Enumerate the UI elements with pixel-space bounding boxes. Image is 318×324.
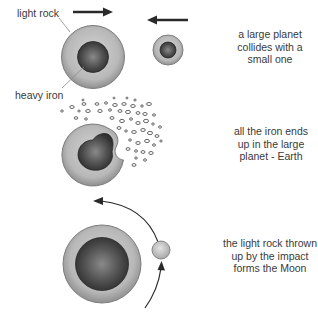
caption-line: up by the impact bbox=[210, 250, 318, 263]
arrow-left-icon bbox=[147, 16, 188, 25]
caption-line: a large planet bbox=[215, 28, 318, 41]
caption-line: up in the large bbox=[216, 138, 318, 151]
step-3-moon bbox=[63, 197, 170, 308]
arrow-right-icon bbox=[73, 8, 113, 17]
step-2-caption: all the iron ends up in the large planet… bbox=[216, 125, 318, 163]
caption-line: the light rock thrown bbox=[210, 237, 318, 250]
earth-final-icon bbox=[63, 225, 141, 303]
moon-icon bbox=[152, 241, 170, 259]
step-2-merge bbox=[61, 97, 163, 186]
light-rock-leader bbox=[59, 18, 70, 32]
small-planet-icon bbox=[153, 35, 183, 65]
light-rock-label: light rock bbox=[17, 7, 59, 19]
caption-line: collides with a bbox=[215, 41, 318, 54]
caption-line: planet - Earth bbox=[216, 150, 318, 163]
step-3-caption: the light rock thrown up by the impact f… bbox=[210, 237, 318, 275]
impact-diagram: light rock heavy iron a large planet col… bbox=[0, 0, 318, 324]
heavy-iron-label: heavy iron bbox=[15, 89, 63, 101]
caption-line: small one bbox=[215, 53, 318, 66]
caption-line: forms the Moon bbox=[210, 262, 318, 275]
step-1-caption: a large planet collides with a small one bbox=[215, 28, 318, 66]
caption-line: all the iron ends bbox=[216, 125, 318, 138]
step-1-collision bbox=[59, 8, 188, 89]
earth-merged-icon bbox=[62, 124, 124, 186]
